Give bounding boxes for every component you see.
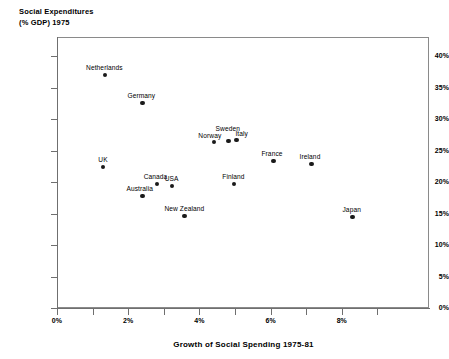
y-tick-label: 30% bbox=[403, 115, 449, 122]
data-point bbox=[182, 214, 186, 218]
y-tick-label: 20% bbox=[403, 178, 449, 185]
data-point bbox=[140, 101, 144, 105]
x-tick-mark bbox=[57, 309, 58, 315]
y-axis-line bbox=[57, 37, 58, 309]
data-point bbox=[234, 138, 238, 142]
data-point bbox=[226, 139, 230, 143]
y-tick-mark bbox=[51, 277, 57, 278]
x-tick-label: 8% bbox=[322, 317, 362, 324]
data-point-label: New Zealand bbox=[164, 205, 204, 212]
data-point bbox=[271, 159, 275, 163]
y-tick-label: 25% bbox=[403, 147, 449, 154]
data-point-label: France bbox=[261, 150, 282, 157]
data-point-label: Ireland bbox=[300, 153, 321, 160]
x-tick-label: 2% bbox=[108, 317, 148, 324]
data-point-label: Netherlands bbox=[86, 64, 123, 71]
y-tick-label: 5% bbox=[403, 273, 449, 280]
data-point bbox=[350, 215, 354, 219]
x-tick-mark bbox=[342, 309, 343, 315]
data-point-label: UK bbox=[98, 156, 107, 163]
y-tick-mark bbox=[51, 182, 57, 183]
x-axis-title: Growth of Social Spending 1975-81 bbox=[57, 340, 430, 349]
data-point bbox=[309, 162, 313, 166]
data-point-label: Germany bbox=[127, 92, 155, 99]
y-tick-label: 15% bbox=[403, 210, 449, 217]
x-tick-label: 0% bbox=[37, 317, 77, 324]
y-tick-label: 0% bbox=[403, 304, 449, 311]
y-axis-title-line1: Social Expenditures bbox=[19, 7, 94, 16]
data-point bbox=[140, 194, 144, 198]
x-tick-mark-minor bbox=[306, 309, 307, 315]
x-tick-mark-minor bbox=[164, 309, 165, 315]
data-point-label: Italy bbox=[235, 130, 248, 137]
x-tick-mark-minor bbox=[377, 309, 378, 315]
y-tick-mark bbox=[51, 88, 57, 89]
data-point-label: Australia bbox=[126, 185, 153, 192]
y-tick-label: 10% bbox=[403, 241, 449, 248]
x-tick-label: 4% bbox=[179, 317, 219, 324]
data-point-label: Japan bbox=[342, 206, 360, 213]
y-tick-mark bbox=[51, 214, 57, 215]
x-tick-label: 6% bbox=[251, 317, 291, 324]
y-axis-title-line2: (% GDP) 1975 bbox=[19, 18, 70, 27]
x-tick-mark-minor bbox=[235, 309, 236, 315]
data-point bbox=[170, 184, 174, 188]
x-tick-mark bbox=[271, 309, 272, 315]
y-tick-label: 35% bbox=[403, 84, 449, 91]
y-tick-mark bbox=[51, 119, 57, 120]
data-point-label: Finland bbox=[222, 173, 244, 180]
x-tick-mark bbox=[199, 309, 200, 315]
x-axis-line bbox=[57, 308, 430, 309]
y-tick-mark bbox=[51, 151, 57, 152]
x-tick-mark bbox=[128, 309, 129, 315]
data-point-label: USA bbox=[165, 175, 179, 182]
y-axis-title: Social Expenditures(% GDP) 1975 bbox=[19, 7, 94, 28]
data-point bbox=[155, 182, 159, 186]
y-tick-label: 40% bbox=[403, 52, 449, 59]
x-tick-mark-minor bbox=[93, 309, 94, 315]
scatter-chart: Social Expenditures(% GDP) 1975 0%5%10%1… bbox=[0, 0, 449, 359]
y-tick-mark bbox=[51, 56, 57, 57]
data-point-label: Norway bbox=[198, 132, 221, 139]
y-tick-mark bbox=[51, 245, 57, 246]
